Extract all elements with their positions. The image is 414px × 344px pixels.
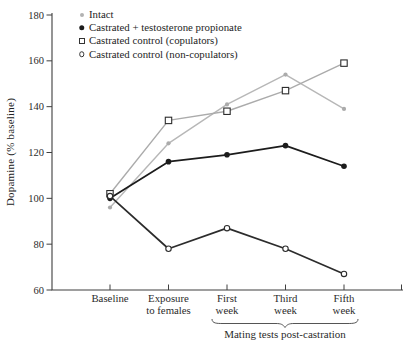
- legend-label: Castrated control (non-copulators): [89, 49, 238, 60]
- data-point-0: [342, 107, 346, 111]
- data-point-0: [166, 141, 170, 145]
- data-point-2: [224, 108, 230, 114]
- data-point-0: [283, 72, 287, 76]
- data-point-1: [341, 163, 347, 169]
- data-point-1: [283, 143, 289, 149]
- open-circle-marker-icon: [78, 51, 85, 58]
- dopamine-line-chart-figure: 1801601401201008060BaselineExposureto fe…: [0, 0, 414, 344]
- data-point-3: [166, 246, 171, 251]
- y-tick-label: 120: [28, 147, 44, 158]
- legend-item-castrated-noncopulators: Castrated control (non-copulators): [78, 49, 242, 60]
- y-tick-label: 100: [28, 193, 44, 204]
- series-line-2: [110, 63, 344, 194]
- x-tick-label: Exposureto females: [146, 292, 191, 316]
- data-point-3: [283, 246, 288, 251]
- brace: [212, 319, 358, 328]
- data-point-2: [165, 117, 171, 123]
- legend-item-castrated-testosterone: Castrated + testosterone propionate: [78, 22, 242, 33]
- data-point-2: [341, 60, 347, 66]
- y-axis-label: Dopamine (% baseline): [4, 98, 16, 206]
- y-tick-label: 60: [34, 285, 45, 296]
- y-tick-label: 160: [28, 55, 44, 66]
- x-tick-label: Thirdweek: [274, 292, 299, 316]
- data-point-3: [224, 225, 229, 230]
- legend-item-intact: Intact: [78, 9, 242, 20]
- open-square-marker-icon: [78, 37, 85, 44]
- y-tick-label: 180: [28, 10, 44, 21]
- data-point-1: [224, 152, 230, 158]
- y-tick-label: 80: [34, 239, 45, 250]
- y-tick-label: 140: [28, 101, 44, 112]
- gray-dot-marker-icon: [78, 11, 85, 18]
- series-line-0: [110, 75, 344, 208]
- legend-label: Castrated + testosterone propionate: [89, 22, 242, 33]
- legend-item-castrated-copulators: Castrated control (copulators): [78, 35, 242, 46]
- x-tick-label: Fifthweek: [333, 292, 356, 316]
- data-point-0: [108, 205, 112, 209]
- annotation-label: Mating tests post-castration: [224, 328, 346, 340]
- data-point-3: [341, 271, 346, 276]
- filled-circle-marker-icon: [78, 24, 85, 31]
- x-tick-label: Firstweek: [216, 292, 239, 316]
- x-tick-label: Baseline: [91, 292, 128, 304]
- data-point-2: [282, 87, 288, 93]
- data-point-1: [166, 159, 172, 165]
- series-line-3: [110, 196, 344, 274]
- data-point-3: [107, 193, 112, 198]
- legend-label: Castrated control (copulators): [89, 35, 218, 46]
- data-point-0: [225, 102, 229, 106]
- legend: Intact Castrated + testosterone propiona…: [78, 9, 242, 60]
- legend-label: Intact: [89, 9, 114, 20]
